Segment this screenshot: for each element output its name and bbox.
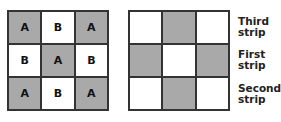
- grid-cell: [196, 77, 229, 110]
- grid-cell: [129, 11, 162, 44]
- grid-cell: [196, 11, 229, 44]
- grid-cell-b: B: [41, 77, 74, 110]
- grid-cell-shaded: [129, 44, 162, 77]
- grid-cell-shaded: [162, 77, 195, 110]
- grid-cell-b: B: [41, 11, 74, 44]
- grid-cell-a: A: [75, 11, 108, 44]
- grid-cell-b: B: [8, 44, 41, 77]
- grid-cell-a: A: [8, 77, 41, 110]
- grid-cell-a: A: [75, 77, 108, 110]
- grid-cell: [162, 44, 195, 77]
- grid-cell-a: A: [41, 44, 74, 77]
- ab-pattern-grid: A B A B A B A B A: [7, 10, 109, 111]
- strip-label-first: First strip: [238, 44, 281, 78]
- strip-label-third: Third strip: [238, 10, 281, 44]
- strip-labels: Third strip First strip Second strip: [238, 10, 281, 111]
- strip-pattern-grid: [128, 10, 230, 111]
- grid-cell-b: B: [75, 44, 108, 77]
- strip-label-second: Second strip: [238, 77, 281, 111]
- grid-cell-shaded: [196, 44, 229, 77]
- grid-cell: [129, 77, 162, 110]
- grid-cell-a: A: [8, 11, 41, 44]
- grid-cell-shaded: [162, 11, 195, 44]
